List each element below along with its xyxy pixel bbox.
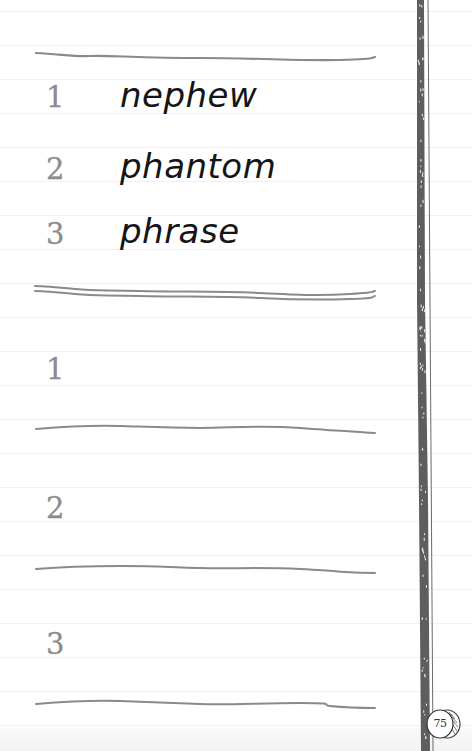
word-number: 2 <box>46 155 64 184</box>
spine-speckle <box>422 308 423 311</box>
spine-speckle <box>422 575 423 577</box>
answer-field[interactable] <box>110 355 370 415</box>
ruled-line <box>0 317 472 318</box>
answer-rule-1 <box>36 426 375 433</box>
spine-speckle <box>423 117 424 120</box>
spine-speckle <box>420 88 421 92</box>
spine-speckle <box>426 659 427 662</box>
spine-speckle <box>421 503 422 505</box>
spine-speckle <box>422 448 423 451</box>
spine-speckle <box>424 340 425 344</box>
spine-speckle <box>424 658 425 660</box>
ruled-line <box>0 691 472 692</box>
spine-speckle <box>419 17 420 19</box>
spine-speckle <box>419 63 420 65</box>
spine-speckle <box>419 4 420 7</box>
page-number: 75 <box>426 710 454 738</box>
word-text: phrase <box>120 214 240 248</box>
spine-speckle <box>423 306 424 309</box>
ruled-line <box>0 487 472 488</box>
double-rule-upper <box>35 286 375 295</box>
spine-speckle <box>421 185 422 188</box>
spine-speckle <box>422 335 423 337</box>
spine-speckle <box>420 165 421 167</box>
spine-speckle <box>419 225 420 228</box>
spine-speckle <box>421 392 422 394</box>
top-rule <box>36 53 375 60</box>
spine-speckle <box>422 58 423 60</box>
ruled-line <box>0 453 472 454</box>
word-number: 1 <box>46 83 64 112</box>
spine-speckle <box>422 93 423 97</box>
spine-speckle <box>421 407 422 409</box>
answer-rule-3 <box>36 701 375 708</box>
answer-field[interactable] <box>110 494 370 554</box>
spine-speckle <box>420 159 421 162</box>
spine-speckle <box>420 255 421 258</box>
ruled-line <box>0 45 472 46</box>
spine-speckle <box>422 368 423 372</box>
spine-speckle <box>422 35 423 39</box>
spine-speckle <box>421 180 422 183</box>
word-number: 3 <box>46 220 64 249</box>
spine-speckle <box>422 617 423 619</box>
spine-speckle <box>422 172 423 174</box>
spine-speckle <box>424 555 425 558</box>
word-text: phantom <box>120 149 276 183</box>
ruled-line <box>0 623 472 624</box>
spine-speckle <box>420 139 421 142</box>
spine-speckle <box>422 500 423 502</box>
spine-speckle <box>422 416 423 418</box>
answer-field[interactable] <box>110 630 370 690</box>
ruled-line <box>0 725 472 726</box>
spine-speckle <box>424 533 425 535</box>
spine-speckle <box>419 101 420 103</box>
spine-speckle <box>422 669 423 672</box>
spine-speckle <box>420 326 421 330</box>
ruled-line <box>0 589 472 590</box>
notebook-spine <box>414 0 434 751</box>
spine-speckle <box>424 370 425 373</box>
word-text: nephew <box>120 78 257 112</box>
ruled-line <box>0 11 472 12</box>
spine-speckle <box>423 200 424 204</box>
spine-speckle <box>425 491 426 493</box>
spine-speckle <box>426 618 427 620</box>
spine-speckle <box>419 37 420 40</box>
spine-speckle <box>420 348 421 352</box>
spine-speckle <box>419 266 420 270</box>
spine-speckle <box>421 304 422 307</box>
answer-number: 1 <box>46 355 64 384</box>
spine-speckle <box>421 326 422 329</box>
spine-speckle <box>420 288 421 291</box>
spine-speckle <box>422 364 423 366</box>
ruled-line <box>0 555 472 556</box>
spine-speckle <box>421 365 422 368</box>
spine-speckle <box>425 558 426 561</box>
spine-speckle <box>425 675 426 678</box>
page-bottom-edge <box>0 728 472 751</box>
spine-speckle <box>420 20 421 22</box>
answer-number: 3 <box>46 630 64 659</box>
ruled-line <box>0 351 472 352</box>
spine-speckle <box>420 488 421 491</box>
spine-speckle <box>422 113 423 116</box>
double-rule-lower <box>35 291 375 300</box>
spine-speckle <box>420 170 421 174</box>
spine-speckle <box>423 412 424 415</box>
page-number-badge: 75 <box>425 706 463 742</box>
spine-speckle <box>420 464 421 467</box>
spine-speckle <box>420 335 421 337</box>
spine-speckle <box>423 667 424 669</box>
spine-speckle <box>422 175 423 177</box>
spine-speckle <box>423 551 424 554</box>
spine-speckle <box>424 309 425 312</box>
ruled-line <box>0 283 472 284</box>
spine-speckle <box>424 329 425 332</box>
ruled-line <box>0 419 472 420</box>
spine-speckle <box>420 205 421 207</box>
spine-speckle <box>420 363 421 365</box>
spine-speckle <box>421 485 422 487</box>
answer-rule-2 <box>36 566 375 573</box>
spine-speckle <box>426 585 427 588</box>
